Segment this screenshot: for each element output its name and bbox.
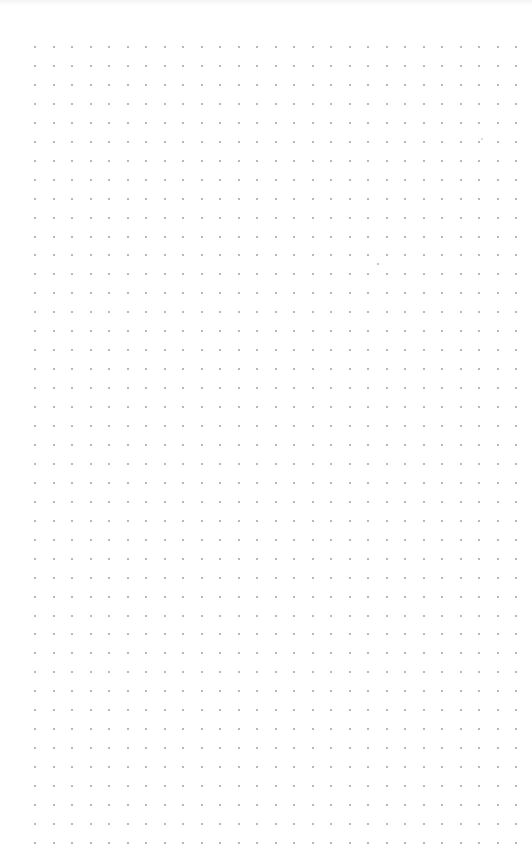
grid-dot (201, 652, 203, 654)
grid-dot (108, 633, 110, 635)
grid-dot (441, 482, 443, 484)
grid-dot (460, 330, 462, 332)
grid-dot (367, 596, 369, 598)
grid-dot (219, 273, 221, 275)
grid-dot (90, 463, 92, 465)
grid-dot (164, 747, 166, 749)
grid-dot (108, 539, 110, 541)
grid-dot (478, 330, 480, 332)
grid-dot (312, 577, 314, 579)
grid-dot (330, 387, 332, 389)
grid-dot (108, 823, 110, 825)
grid-dot (182, 842, 184, 844)
grid-dot (460, 577, 462, 579)
grid-dot (34, 596, 36, 598)
grid-dot (164, 122, 166, 124)
grid-dot (441, 292, 443, 294)
grid-dot (127, 236, 129, 238)
grid-dot (53, 103, 55, 105)
grid-dot (182, 633, 184, 635)
grid-dot (53, 84, 55, 86)
grid-dot (293, 709, 295, 711)
grid-dot (275, 292, 277, 294)
grid-dot (201, 236, 203, 238)
grid-dot (497, 633, 499, 635)
grid-dot (330, 690, 332, 692)
grid-dot (34, 387, 36, 389)
grid-dot (34, 141, 36, 143)
grid-dot (478, 254, 480, 256)
grid-dot (201, 709, 203, 711)
grid-dot (275, 482, 277, 484)
grid-dot (275, 330, 277, 332)
grid-dot (441, 444, 443, 446)
grid-dot (460, 842, 462, 844)
grid-dot (256, 406, 258, 408)
grid-dot (275, 728, 277, 730)
grid-dot (293, 482, 295, 484)
grid-dot (293, 330, 295, 332)
grid-dot (256, 217, 258, 219)
grid-dot (312, 84, 314, 86)
grid-dot (71, 330, 73, 332)
grid-dot (423, 349, 425, 351)
grid-dot (71, 728, 73, 730)
grid-dot (238, 842, 240, 844)
grid-dot (201, 160, 203, 162)
grid-dot (256, 141, 258, 143)
grid-dot (53, 577, 55, 579)
grid-dot (367, 615, 369, 617)
grid-dot (34, 652, 36, 654)
grid-dot (34, 709, 36, 711)
grid-dot (127, 747, 129, 749)
grid-dot (71, 766, 73, 768)
grid-dot (219, 804, 221, 806)
grid-dot (127, 577, 129, 579)
grid-dot (275, 103, 277, 105)
grid-dot (90, 236, 92, 238)
grid-dot (164, 349, 166, 351)
grid-dot (127, 84, 129, 86)
grid-dot (34, 236, 36, 238)
grid-dot (497, 766, 499, 768)
grid-dot (423, 728, 425, 730)
grid-dot (293, 122, 295, 124)
grid-dot (71, 690, 73, 692)
grid-dot (515, 406, 517, 408)
grid-dot (349, 368, 351, 370)
grid-dot (164, 709, 166, 711)
grid-dot (256, 690, 258, 692)
grid-dot (145, 501, 147, 503)
grid-dot (441, 520, 443, 522)
grid-dot (349, 652, 351, 654)
grid-dot (145, 254, 147, 256)
grid-dot (515, 633, 517, 635)
grid-dot (293, 254, 295, 256)
grid-dot (71, 236, 73, 238)
grid-dot (460, 463, 462, 465)
grid-dot (127, 141, 129, 143)
grid-dot (182, 596, 184, 598)
grid-dot (330, 766, 332, 768)
grid-dot (127, 633, 129, 635)
grid-dot (404, 652, 406, 654)
grid-dot (293, 65, 295, 67)
grid-dot (219, 766, 221, 768)
grid-dot (127, 785, 129, 787)
grid-dot (238, 254, 240, 256)
grid-dot (219, 179, 221, 181)
grid-dot (182, 217, 184, 219)
grid-dot (312, 122, 314, 124)
grid-dot (256, 558, 258, 560)
grid-dot (312, 842, 314, 844)
grid-dot (145, 577, 147, 579)
grid-dot (127, 65, 129, 67)
grid-dot (71, 292, 73, 294)
grid-dot (90, 690, 92, 692)
grid-dot (145, 349, 147, 351)
grid-dot (386, 84, 388, 86)
grid-dot (312, 160, 314, 162)
dot-grid-canvas[interactable] (0, 0, 532, 865)
grid-dot (34, 406, 36, 408)
grid-dot (330, 842, 332, 844)
